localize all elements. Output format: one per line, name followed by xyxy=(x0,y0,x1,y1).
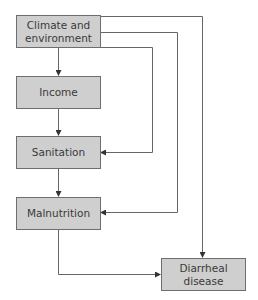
node-label: Diarrheal disease xyxy=(179,262,227,288)
edge-climate-malnutrition xyxy=(100,33,178,213)
node-label: Income xyxy=(39,86,78,99)
node-label: Malnutrition xyxy=(27,207,90,220)
edge-climate-sanitation xyxy=(100,48,153,153)
edge-malnutrition-diarrheal xyxy=(59,229,161,275)
node-climate-and-environment: Climate and environment xyxy=(16,15,101,48)
node-sanitation: Sanitation xyxy=(16,136,101,169)
node-diarrheal-disease: Diarrheal disease xyxy=(161,258,246,291)
node-malnutrition: Malnutrition xyxy=(16,197,101,230)
node-income: Income xyxy=(16,76,101,109)
node-label: Sanitation xyxy=(32,146,85,159)
node-label: Climate and environment xyxy=(25,19,92,45)
edge-climate-diarrheal xyxy=(100,17,203,258)
